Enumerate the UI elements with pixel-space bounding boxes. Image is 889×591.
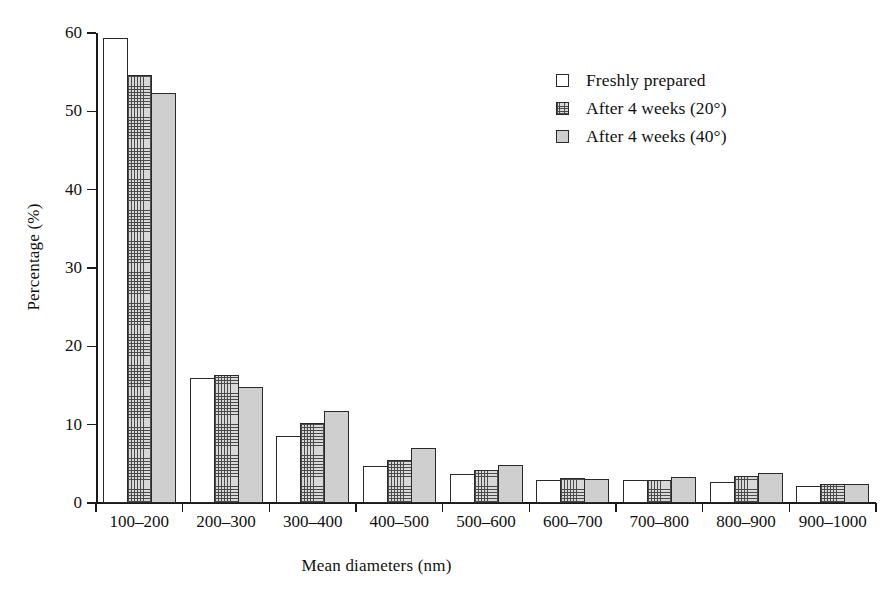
bar-group bbox=[276, 33, 349, 503]
bar-group bbox=[190, 33, 263, 503]
x-tick-8 bbox=[789, 503, 791, 512]
bar bbox=[734, 476, 759, 503]
x-tick-1 bbox=[182, 503, 184, 512]
bar bbox=[127, 75, 152, 503]
x-tick-5 bbox=[529, 503, 531, 512]
bar bbox=[647, 480, 672, 504]
legend-item: After 4 weeks (40°) bbox=[556, 122, 727, 150]
y-tick-label-30: 30 bbox=[36, 259, 82, 276]
bar bbox=[474, 470, 499, 503]
bar bbox=[450, 474, 475, 503]
y-axis-ticks: 0102030405060 bbox=[0, 0, 82, 591]
y-tick-40 bbox=[87, 189, 96, 191]
x-axis-title: Mean diameters (nm) bbox=[0, 556, 821, 576]
bar bbox=[623, 480, 648, 503]
bar-group bbox=[363, 33, 436, 503]
y-tick-60 bbox=[87, 32, 96, 34]
legend-swatch-icon bbox=[556, 102, 569, 115]
x-tick-3 bbox=[355, 503, 357, 512]
bar bbox=[411, 448, 436, 503]
bar-group bbox=[103, 33, 176, 503]
chart-legend: Freshly preparedAfter 4 weeks (20°)After… bbox=[556, 66, 727, 150]
legend-item: After 4 weeks (20°) bbox=[556, 94, 727, 122]
x-tick-6 bbox=[615, 503, 617, 512]
x-tick-4 bbox=[442, 503, 444, 512]
bar bbox=[151, 93, 176, 503]
bar bbox=[276, 436, 301, 503]
bar bbox=[671, 477, 696, 503]
bar bbox=[844, 484, 869, 503]
plot-area bbox=[96, 33, 876, 503]
bar-group bbox=[450, 33, 523, 503]
bar bbox=[387, 460, 412, 503]
bar bbox=[363, 466, 388, 503]
y-tick-label-0: 0 bbox=[36, 494, 82, 511]
y-tick-label-40: 40 bbox=[36, 181, 82, 198]
y-tick-label-20: 20 bbox=[36, 337, 82, 354]
legend-swatch-icon bbox=[556, 130, 569, 143]
bar bbox=[498, 465, 523, 503]
bar bbox=[536, 480, 561, 504]
x-tick-0 bbox=[95, 503, 97, 512]
legend-label: After 4 weeks (40°) bbox=[586, 126, 727, 147]
bar bbox=[758, 473, 783, 503]
legend-label: Freshly prepared bbox=[586, 70, 706, 91]
y-tick-50 bbox=[87, 111, 96, 113]
bar bbox=[214, 375, 239, 503]
legend-item: Freshly prepared bbox=[556, 66, 727, 94]
bar bbox=[324, 411, 349, 503]
bar bbox=[820, 484, 845, 503]
y-tick-label-50: 50 bbox=[36, 102, 82, 119]
x-tick-2 bbox=[269, 503, 271, 512]
bar-chart-figure: Percentage (%) Mean diameters (nm) 01020… bbox=[0, 0, 889, 591]
bar bbox=[190, 378, 215, 503]
legend-label: After 4 weeks (20°) bbox=[586, 98, 727, 119]
bar bbox=[238, 387, 263, 503]
y-tick-10 bbox=[87, 424, 96, 426]
x-tick-9 bbox=[875, 503, 877, 512]
x-tick-7 bbox=[702, 503, 704, 512]
y-tick-label-60: 60 bbox=[36, 24, 82, 41]
y-tick-30 bbox=[87, 267, 96, 269]
bar bbox=[300, 423, 325, 503]
legend-swatch-icon bbox=[556, 74, 569, 87]
bar-group bbox=[796, 33, 869, 503]
y-tick-20 bbox=[87, 346, 96, 348]
x-category-label: 900–1000 bbox=[779, 512, 886, 532]
bar bbox=[710, 482, 735, 503]
y-tick-label-10: 10 bbox=[36, 416, 82, 433]
bar bbox=[560, 478, 585, 503]
bar bbox=[103, 38, 128, 503]
bar bbox=[796, 486, 821, 503]
bar bbox=[584, 479, 609, 503]
